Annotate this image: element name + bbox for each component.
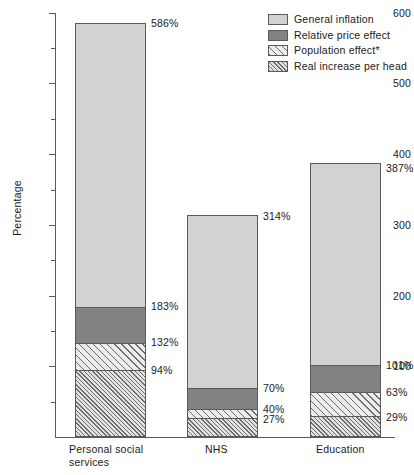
value-label-pss-total: 586% (151, 18, 179, 29)
y-tick-label-400: 400 (365, 149, 411, 159)
bar-personal-social-services[interactable] (75, 23, 146, 437)
segment-relative-price-effect[interactable] (187, 388, 258, 410)
legend: General inflation Relative price effect … (268, 12, 407, 74)
legend-swatch-population-effect (268, 45, 288, 56)
value-label-education-population: 63% (386, 387, 408, 398)
bar-nhs[interactable] (187, 215, 258, 437)
legend-swatch-real-increase-per-head (268, 61, 288, 72)
x-axis-line (55, 437, 395, 438)
segment-population-effect[interactable] (310, 392, 381, 417)
y-tick-minor-50 (51, 402, 55, 403)
segment-general-inflation[interactable] (187, 215, 258, 389)
y-tick-600 (49, 13, 55, 14)
segment-population-effect[interactable] (75, 343, 146, 371)
y-tick-200 (49, 296, 55, 297)
value-label-pss-real-increase: 94% (151, 365, 173, 376)
x-label-line1: NHS (205, 443, 228, 456)
value-label-pss-relative: 183% (151, 301, 179, 312)
y-tick-minor-250 (51, 260, 55, 261)
segment-real-increase-per-head[interactable] (310, 416, 381, 437)
x-label-line1: Personal social (69, 443, 143, 456)
value-label-pss-population: 132% (151, 337, 179, 348)
x-label-personal-social-services: Personal social services (69, 443, 143, 468)
x-label-line2: services (69, 456, 143, 469)
y-tick-minor-150 (51, 331, 55, 332)
x-label-line1: Education (316, 443, 365, 456)
legend-label-general-inflation: General inflation (294, 14, 374, 25)
segment-general-inflation[interactable] (75, 23, 146, 308)
y-tick-minor-350 (51, 190, 55, 191)
bar-education[interactable] (310, 163, 381, 437)
y-tick-minor-550 (51, 48, 55, 49)
legend-swatch-relative-price-effect (268, 30, 288, 41)
value-label-nhs-real-increase: 27% (263, 414, 285, 425)
value-label-education-real-increase: 29% (386, 412, 408, 423)
y-axis-title: Percentage (11, 168, 23, 248)
y-tick-300 (49, 225, 55, 226)
segment-relative-price-effect[interactable] (75, 307, 146, 344)
legend-item-relative-price-effect[interactable]: Relative price effect (268, 28, 407, 44)
segment-population-effect[interactable] (187, 409, 258, 419)
segment-real-increase-per-head[interactable] (187, 418, 258, 437)
y-tick-100 (49, 366, 55, 367)
segment-relative-price-effect[interactable] (310, 365, 381, 393)
y-tick-label-500: 500 (365, 78, 411, 88)
x-label-education: Education (316, 443, 365, 456)
legend-swatch-general-inflation (268, 14, 288, 25)
legend-label-real-increase-per-head: Real increase per head (294, 61, 407, 72)
value-label-nhs-total: 314% (263, 211, 291, 222)
value-label-education-total: 387% (386, 163, 414, 174)
value-label-education-relative: 101% (386, 360, 414, 371)
legend-item-general-inflation[interactable]: General inflation (268, 12, 407, 28)
value-label-nhs-relative: 70% (263, 383, 285, 394)
y-tick-400 (49, 154, 55, 155)
legend-item-real-increase-per-head[interactable]: Real increase per head (268, 59, 407, 75)
legend-label-population-effect: Population effect* (294, 45, 380, 56)
segment-general-inflation[interactable] (310, 163, 381, 366)
y-axis-line (55, 13, 56, 438)
segment-real-increase-per-head[interactable] (75, 370, 146, 437)
legend-label-relative-price-effect: Relative price effect (294, 30, 390, 41)
y-tick-minor-450 (51, 119, 55, 120)
y-tick-500 (49, 83, 55, 84)
x-label-nhs: NHS (205, 443, 228, 456)
legend-item-population-effect[interactable]: Population effect* (268, 43, 407, 59)
